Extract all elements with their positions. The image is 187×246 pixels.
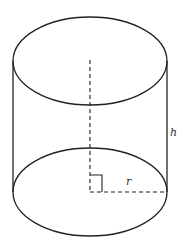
- right-angle-marker: [90, 175, 102, 192]
- height-label: h: [170, 126, 177, 139]
- dashed-guides: [90, 60, 167, 192]
- radius-label: r: [126, 175, 132, 188]
- cylinder-diagram: h r: [0, 0, 187, 246]
